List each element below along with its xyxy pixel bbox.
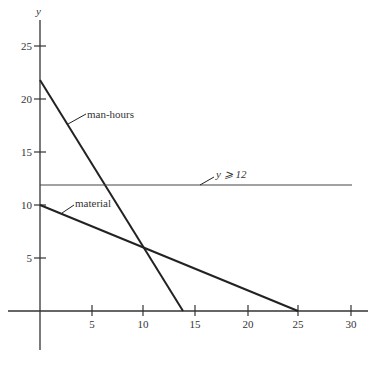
x-tick-label: 5 bbox=[89, 318, 95, 330]
y-tick-label: 15 bbox=[21, 146, 33, 158]
y-tick-label: 20 bbox=[21, 93, 33, 105]
x-tick-label: 20 bbox=[243, 318, 255, 330]
y-tick-label: 5 bbox=[27, 252, 33, 264]
x-tick-label: 30 bbox=[346, 318, 358, 330]
x-tick-label: 25 bbox=[293, 318, 305, 330]
material-pointer bbox=[62, 205, 74, 213]
y-tick-label: 25 bbox=[21, 40, 33, 52]
constraint-label: y ⩾ 12 bbox=[215, 168, 247, 180]
man-hours-label: man-hours bbox=[87, 108, 134, 120]
man-hours-pointer bbox=[68, 114, 86, 124]
x-tick-label: 10 bbox=[138, 318, 150, 330]
constraint-pointer bbox=[200, 177, 214, 185]
x-tick-label: 15 bbox=[190, 318, 202, 330]
material-label: material bbox=[75, 197, 111, 209]
chart: y 5 10 15 20 25 30 5 10 15 20 25 man-hou… bbox=[0, 0, 380, 366]
y-tick-label: 10 bbox=[21, 199, 33, 211]
y-axis-label: y bbox=[35, 5, 41, 17]
material-line bbox=[40, 205, 298, 311]
